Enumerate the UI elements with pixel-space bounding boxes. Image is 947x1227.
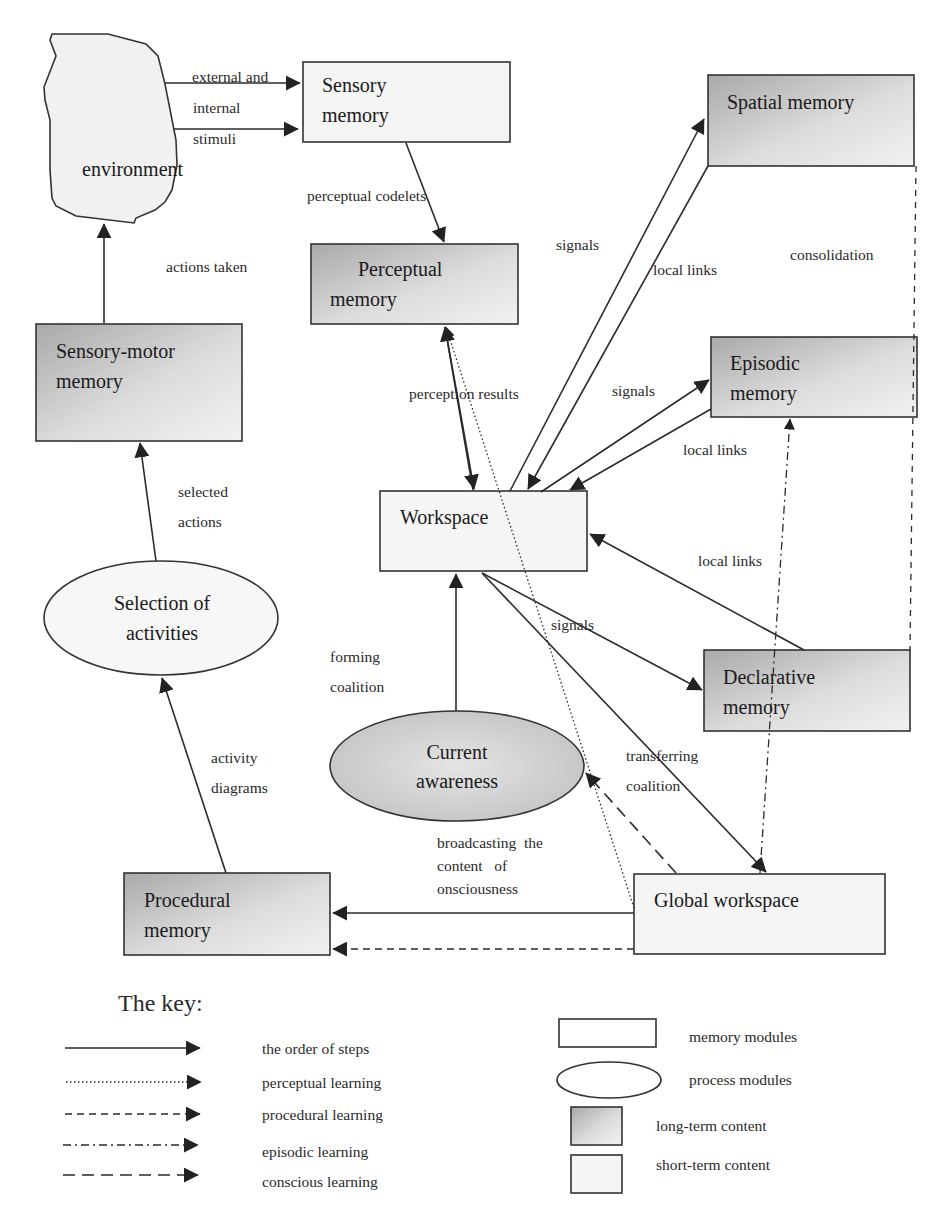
label-broadcasting-1: broadcasting the — [437, 834, 543, 851]
sensory-memory-node: Sensory memory — [303, 62, 510, 142]
legend-title: The key: — [118, 990, 203, 1016]
selection-label-1: Selection of — [114, 592, 210, 614]
edge-activity-diagrams — [162, 678, 226, 873]
spatial-memory-node: Spatial memory — [708, 75, 914, 166]
label-transferring-coalition-2: coalition — [626, 777, 680, 794]
legend-label-short-term: short-term content — [656, 1156, 771, 1173]
current-awareness-label-2: awareness — [416, 770, 498, 792]
legend-label-procedural-learning: procedural learning — [262, 1106, 383, 1123]
episodic-memory-label-2: memory — [730, 382, 797, 405]
label-selected-actions-1: selected — [178, 483, 228, 500]
label-transferring-coalition-1: transferring — [626, 747, 699, 764]
edge-signals-spatial — [510, 119, 704, 491]
selection-label-2: activities — [126, 622, 198, 644]
perceptual-memory-node: Perceptual memory — [311, 244, 518, 324]
workspace-label: Workspace — [400, 506, 488, 529]
label-activity-diagrams-1: activity — [211, 749, 258, 766]
legend-line-dashed: procedural learning — [65, 1106, 383, 1123]
label-signals-episodic: signals — [612, 382, 655, 399]
label-stimuli-2: internal — [193, 99, 240, 116]
label-local-links-episodic: local links — [683, 441, 747, 458]
procedural-memory-label-2: memory — [144, 919, 211, 942]
environment-label: environment — [82, 158, 184, 180]
legend-label-conscious-learning: conscious learning — [262, 1173, 378, 1190]
label-forming-coalition-2: coalition — [330, 678, 384, 695]
edge-local-links-declarative — [590, 534, 804, 650]
label-perception-results: perception results — [409, 385, 519, 402]
label-local-links-declarative: local links — [698, 552, 762, 569]
spatial-memory-label: Spatial memory — [727, 91, 854, 114]
selection-of-activities-node: Selection of activities — [44, 561, 278, 675]
label-broadcasting-2: content of — [437, 857, 508, 874]
perceptual-memory-label-2: memory — [330, 288, 397, 311]
label-local-links-spatial: local links — [653, 261, 717, 278]
legend-label-order-of-steps: the order of steps — [262, 1040, 369, 1057]
current-awareness-node: Current awareness — [330, 711, 584, 821]
legend-label-long-term: long-term content — [656, 1117, 767, 1134]
perceptual-memory-label-1: Perceptual — [358, 258, 443, 281]
episodic-memory-node: Episodic memory — [711, 337, 917, 417]
environment-node: environment — [44, 34, 184, 223]
label-selected-actions-2: actions — [178, 513, 222, 530]
global-workspace-node: Global workspace — [634, 874, 885, 954]
sensory-memory-label-1: Sensory — [322, 74, 386, 97]
environment-shape — [44, 34, 177, 223]
label-stimuli-1: external and — [192, 68, 268, 85]
legend-label-perceptual-learning: perceptual learning — [262, 1074, 381, 1091]
edge-selected-actions — [140, 443, 156, 561]
legend-label-process-modules: process modules — [689, 1071, 792, 1088]
legend-shape-process: process modules — [557, 1062, 792, 1098]
declarative-memory-node: Declarative memory — [704, 650, 910, 731]
sensory-motor-memory-label-2: memory — [56, 370, 123, 393]
global-workspace-label: Global workspace — [654, 889, 799, 912]
label-signals-declarative: signals — [551, 616, 594, 633]
legend-shape-long-term: long-term content — [571, 1107, 767, 1145]
edge-episodic-learning — [760, 419, 790, 873]
sensory-motor-memory-node: Sensory-motor memory — [36, 324, 242, 441]
cognitive-architecture-diagram: environment Sensory memory Perceptual me… — [0, 0, 947, 1227]
declarative-memory-label-2: memory — [723, 696, 790, 719]
workspace-node: Workspace — [380, 491, 587, 571]
label-actions-taken: actions taken — [166, 258, 248, 275]
label-consolidation: consolidation — [790, 246, 874, 263]
legend-line-dash-dot: episodic learning — [63, 1143, 369, 1160]
legend-shape-memory: memory modules — [559, 1019, 797, 1047]
edge-perception-results-down — [445, 327, 474, 489]
procedural-memory-node: Procedural memory — [124, 873, 330, 955]
legend-line-solid: the order of steps — [65, 1040, 369, 1057]
label-forming-coalition-1: forming — [330, 648, 380, 665]
sensory-memory-label-2: memory — [322, 104, 389, 127]
label-activity-diagrams-2: diagrams — [211, 779, 268, 796]
label-signals-spatial: signals — [556, 236, 599, 253]
legend-label-episodic-learning: episodic learning — [262, 1143, 369, 1160]
legend-line-dotted: perceptual learning — [66, 1074, 381, 1091]
sensory-motor-memory-label-1: Sensory-motor — [56, 340, 175, 363]
procedural-memory-label-1: Procedural — [144, 889, 231, 911]
current-awareness-label-1: Current — [426, 741, 488, 763]
declarative-memory-label-1: Declarative — [723, 666, 815, 688]
label-perceptual-codelets: perceptual codelets — [307, 187, 426, 204]
legend-shape-short-term: short-term content — [571, 1155, 771, 1193]
label-stimuli-3: stimuli — [193, 130, 237, 147]
legend: The key: the order of steps perceptual l… — [63, 990, 797, 1193]
legend-line-long-dash: conscious learning — [63, 1173, 378, 1190]
label-broadcasting-3: onsciousness — [437, 880, 518, 897]
episodic-memory-label-1: Episodic — [730, 352, 800, 375]
legend-label-memory-modules: memory modules — [689, 1028, 797, 1045]
